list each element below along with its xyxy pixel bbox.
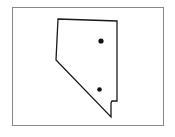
nevada-map (0, 0, 175, 137)
location-dot-north (98, 38, 103, 43)
nevada-outline (56, 19, 117, 117)
location-dot-south (97, 87, 102, 92)
